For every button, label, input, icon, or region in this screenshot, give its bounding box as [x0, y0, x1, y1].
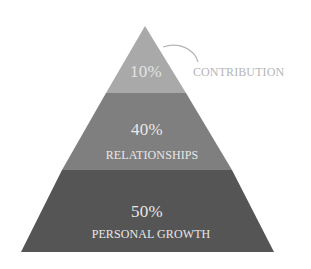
tier-contribution-shape	[106, 26, 186, 93]
callout-connector	[163, 45, 198, 62]
tier-contribution-label: CONTRIBUTION	[193, 66, 284, 78]
tier-personal-growth-percent: 50%	[131, 203, 163, 220]
tier-personal-growth-label: PERSONAL GROWTH	[92, 228, 211, 240]
tier-relationships-label: RELATIONSHIPS	[106, 149, 199, 161]
tier-contribution-percent: 10%	[130, 63, 162, 80]
tier-relationships-percent: 40%	[131, 121, 163, 138]
